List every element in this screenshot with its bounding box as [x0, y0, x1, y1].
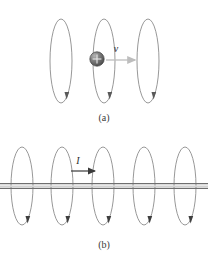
- velocity-label: v: [114, 43, 119, 54]
- field-line-ellipse-a3: [137, 19, 159, 103]
- field-line-path: [50, 19, 72, 103]
- caption-panel-a: (a): [98, 112, 109, 124]
- field-line-path: [137, 19, 159, 103]
- current-wire: [0, 184, 208, 189]
- caption-panel-b: (b): [98, 239, 110, 251]
- field-direction-arrowhead: [65, 92, 70, 100]
- current-label: I: [75, 155, 80, 166]
- physics-figure: v (a): [0, 0, 208, 256]
- panel-b: I (b): [0, 147, 208, 251]
- panel-a: v (a): [50, 19, 159, 124]
- field-direction-arrowhead: [108, 92, 113, 100]
- field-direction-arrowhead: [152, 92, 157, 100]
- positive-charge: [90, 52, 104, 66]
- field-line-ellipse-a1: [50, 19, 72, 103]
- figure-canvas: v (a): [0, 0, 208, 256]
